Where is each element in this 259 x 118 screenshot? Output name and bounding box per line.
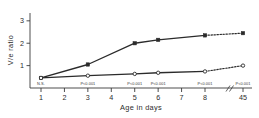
significance-label: P<0.001 xyxy=(127,81,142,86)
x-tick-label: 1 xyxy=(39,93,43,102)
data-point-marker-circle xyxy=(203,70,206,73)
x-tick-label: 5 xyxy=(133,93,137,102)
data-point-marker-square xyxy=(156,38,159,41)
y-tick-label: 1 xyxy=(20,61,24,70)
x-tick-label: 7 xyxy=(180,93,184,102)
data-point-marker-circle xyxy=(86,74,89,77)
data-point-marker-circle xyxy=(156,71,159,74)
y-axis-title: V/e ratio xyxy=(6,35,15,65)
y-tick-label: 2 xyxy=(20,39,24,48)
x-axis-title: Age in days xyxy=(120,103,162,112)
v-e-ratio-line-chart: 123 1234567845 N.S.P<0.001P<0.001P<0.001… xyxy=(0,0,259,118)
significance-label: P<0.001 xyxy=(236,81,251,86)
y-tick-label: 3 xyxy=(20,16,24,25)
data-point-marker-square xyxy=(86,63,89,66)
x-tick-label: 2 xyxy=(62,93,66,102)
significance-label: P<0.001 xyxy=(151,81,166,86)
significance-label: P<0.001 xyxy=(80,81,95,86)
x-tick-label: 45 xyxy=(239,93,247,102)
data-point-marker-square xyxy=(133,42,136,45)
data-point-marker-circle xyxy=(133,72,136,75)
data-point-marker-square xyxy=(241,31,244,34)
x-tick-label: 3 xyxy=(86,93,90,102)
x-tick-label: 4 xyxy=(109,93,113,102)
x-tick-label: 6 xyxy=(156,93,160,102)
data-point-marker-circle xyxy=(39,76,42,79)
significance-label: P<0.001 xyxy=(198,81,213,86)
x-tick-label: 8 xyxy=(203,93,207,102)
data-point-marker-square xyxy=(203,34,206,37)
significance-label: N.S. xyxy=(37,81,45,86)
data-point-marker-circle xyxy=(241,64,244,67)
